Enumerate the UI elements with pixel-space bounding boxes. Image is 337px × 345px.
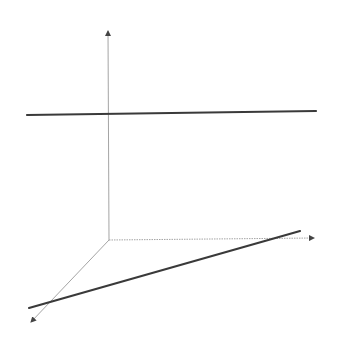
skew-lines-diagram	[0, 0, 337, 345]
x-axis	[31, 240, 109, 322]
z-axis	[108, 31, 109, 240]
lower-line	[29, 231, 300, 308]
y-axis	[109, 238, 314, 240]
lines	[27, 111, 316, 308]
upper-line	[27, 111, 316, 115]
axes	[31, 31, 314, 322]
